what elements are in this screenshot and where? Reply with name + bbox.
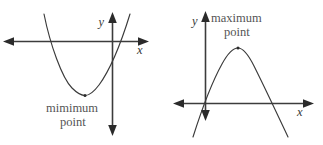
right-x-axis <box>173 99 314 108</box>
right-x-axis-label: x <box>296 105 303 119</box>
left-annotation-line-1: mimimum <box>46 101 98 115</box>
left-vertex-dot <box>84 94 87 97</box>
left-y-axis <box>108 12 117 136</box>
left-y-axis-arrow-up-icon <box>108 12 117 23</box>
right-y-axis-arrow-down-icon <box>201 110 210 121</box>
right-annotation-line-2: point <box>224 25 250 39</box>
left-y-axis-label: y <box>97 15 105 29</box>
parabola-figure: y x mimimum point <box>0 0 323 145</box>
right-y-axis-arrow-up-icon <box>201 11 210 22</box>
left-y-axis-arrow-down-icon <box>108 125 117 136</box>
right-panel: y x maximum point <box>173 11 314 137</box>
left-annotation-line-2: point <box>60 115 86 129</box>
figure-canvas: y x mimimum point <box>0 0 323 145</box>
left-x-axis <box>3 37 149 46</box>
right-x-axis-arrow-right-icon <box>303 99 314 108</box>
right-vertex-dot <box>237 47 240 50</box>
left-x-axis-arrow-left-icon <box>3 37 14 46</box>
right-y-axis-label: y <box>190 14 198 28</box>
right-parabola-curve <box>193 48 288 137</box>
left-parabola-curve <box>44 14 130 96</box>
right-annotation-line-1: maximum <box>211 11 262 25</box>
right-x-axis-arrow-left-icon <box>173 99 184 108</box>
left-panel: y x mimimum point <box>3 12 149 136</box>
left-x-axis-label: x <box>136 43 143 57</box>
right-y-axis <box>201 11 210 121</box>
